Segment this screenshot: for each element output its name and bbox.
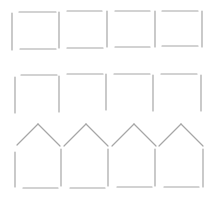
matchstick — [134, 124, 156, 146]
squares-row — [12, 11, 202, 50]
matchstick — [38, 124, 60, 146]
houses-row — [15, 124, 203, 188]
matchstick — [112, 124, 134, 146]
matchstick — [159, 124, 181, 146]
open-squares-row — [15, 74, 201, 113]
matchstick — [181, 124, 203, 146]
matchstick — [17, 124, 38, 145]
matchstick — [86, 124, 108, 146]
matchstick-diagram — [0, 0, 215, 197]
matchstick — [64, 124, 86, 146]
